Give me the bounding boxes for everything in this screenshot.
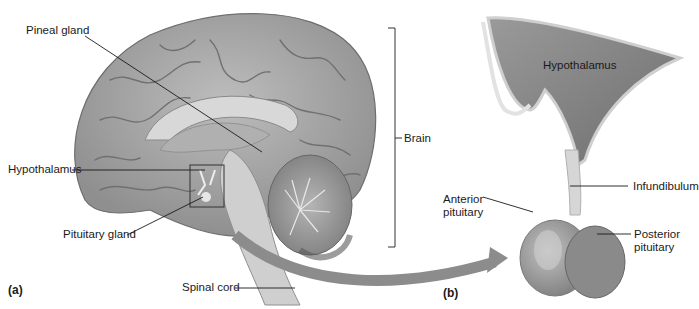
cerebellum-illustration <box>268 155 352 257</box>
label-posterior-pituitary: Posterior pituitary <box>634 228 680 254</box>
panel-label-a: (a) <box>8 283 23 297</box>
panel-label-b: (b) <box>443 286 458 300</box>
label-pineal-gland: Pineal gland <box>26 24 89 37</box>
label-spinal-cord: Spinal cord <box>182 281 240 294</box>
brain-bracket <box>388 28 395 247</box>
pituitary-enlarged <box>520 220 625 298</box>
label-pituitary-gland: Pituitary gland <box>63 228 136 241</box>
label-brain: Brain <box>404 132 431 145</box>
label-anterior-pituitary: Anterior pituitary <box>443 193 483 219</box>
label-hypothalamus-a: Hypothalamus <box>8 163 82 176</box>
label-hypothalamus-b: Hypothalamus <box>543 59 617 72</box>
label-infundibulum: Infundibulum <box>633 180 699 193</box>
